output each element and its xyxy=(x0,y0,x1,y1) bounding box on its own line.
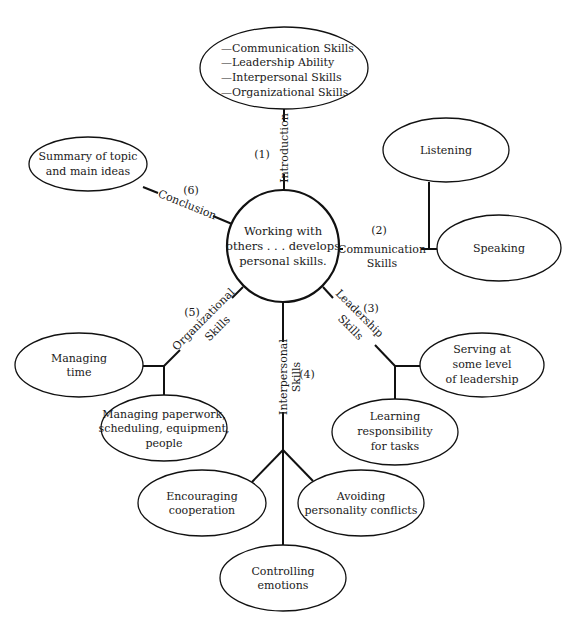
serving-line-1: Serving at xyxy=(453,343,511,356)
speaking-text: Speaking xyxy=(473,242,525,255)
edge-conclusion-a xyxy=(143,187,158,193)
summary-line-1: Summary of topic xyxy=(39,150,138,163)
edge-interpersonal-avoiding xyxy=(283,450,313,481)
edge-leadership-b xyxy=(375,345,395,366)
node-speaking: Speaking xyxy=(437,215,561,281)
node-learning-responsibility: Learning responsibility for tasks xyxy=(332,399,458,465)
node-summary: Summary of topic and main ideas xyxy=(29,137,147,191)
introduction-number: (1) xyxy=(254,148,270,161)
managing-paperwork-line-2: scheduling, equipment, xyxy=(99,422,230,435)
summary-ellipse xyxy=(29,137,147,191)
node-avoiding-conflicts: Avoiding personality conflicts xyxy=(298,470,424,536)
node-listening: Listening xyxy=(383,118,509,182)
node-encouraging-cooperation: Encouraging cooperation xyxy=(138,470,266,536)
branch-interpersonal: (4) Interpersonal Skills Encouraging coo… xyxy=(138,339,424,611)
branch-conclusion: (6) Conclusion Summary of topic and main… xyxy=(29,137,218,222)
node-managing-time: Managing time xyxy=(15,333,143,397)
controlling-line-2: emotions xyxy=(258,579,309,592)
communication-label-line-2: Skills xyxy=(367,257,398,270)
managing-paperwork-line-1: Managing paperwork, xyxy=(102,408,226,421)
mind-map-diagram: Working with others . . . develops perso… xyxy=(0,0,580,630)
branch-leadership: (3) Leadership Skills Serving at some le… xyxy=(332,287,544,465)
edge-conclusion-b xyxy=(213,216,232,224)
edge-leadership-a xyxy=(323,287,333,298)
controlling-line-1: Controlling xyxy=(251,565,314,578)
learning-line-3: for tasks xyxy=(371,440,420,453)
avoiding-line-1: Avoiding xyxy=(336,490,386,503)
branch-introduction: (1) Introduction —Communication Skills —… xyxy=(200,27,368,183)
managing-time-line-1: Managing xyxy=(51,352,107,365)
avoiding-ellipse xyxy=(298,470,424,536)
center-line-3: personal skills. xyxy=(239,254,327,268)
node-managing-paperwork: Managing paperwork, scheduling, equipmen… xyxy=(99,395,230,461)
encouraging-line-2: cooperation xyxy=(169,504,235,517)
center-node: Working with others . . . develops perso… xyxy=(226,190,340,302)
encouraging-line-1: Encouraging xyxy=(166,490,237,503)
controlling-ellipse xyxy=(220,545,346,611)
communication-label-line-1: Communication xyxy=(338,243,426,256)
introduction-topic-2: —Leadership Ability xyxy=(221,56,335,69)
managing-time-ellipse xyxy=(15,333,143,397)
conclusion-number: (6) xyxy=(183,184,199,197)
managing-time-line-2: time xyxy=(67,366,92,379)
node-introduction-topics: —Communication Skills —Leadership Abilit… xyxy=(200,27,368,109)
interpersonal-label-line-2: Skills xyxy=(290,361,303,392)
listening-text: Listening xyxy=(420,144,472,157)
serving-line-2: some level xyxy=(453,358,512,371)
branch-communication: (2) Communication Skills Listening Speak… xyxy=(338,118,561,281)
communication-number: (2) xyxy=(371,224,387,237)
avoiding-line-2: personality conflicts xyxy=(305,504,418,517)
introduction-topic-4: —Organizational Skills xyxy=(221,86,349,99)
branch-organizational: (5) Organizational Skills Managing time … xyxy=(15,285,238,461)
edge-interpersonal-encouraging xyxy=(252,450,283,482)
serving-line-3: of leadership xyxy=(446,373,519,386)
introduction-topic-1: —Communication Skills xyxy=(221,42,354,55)
learning-line-2: responsibility xyxy=(357,425,433,438)
learning-line-1: Learning xyxy=(370,410,420,423)
node-controlling-emotions: Controlling emotions xyxy=(220,545,346,611)
introduction-label: Introduction xyxy=(278,113,291,183)
interpersonal-label-line-1: Interpersonal xyxy=(277,339,290,415)
center-line-1: Working with xyxy=(244,224,323,238)
introduction-topic-3: —Interpersonal Skills xyxy=(221,71,342,84)
summary-line-2: and main ideas xyxy=(46,165,131,178)
managing-paperwork-line-3: people xyxy=(145,437,182,450)
encouraging-ellipse xyxy=(138,470,266,536)
center-line-2: others . . . develops xyxy=(226,239,340,253)
node-serving-leadership: Serving at some level of leadership xyxy=(420,333,544,397)
